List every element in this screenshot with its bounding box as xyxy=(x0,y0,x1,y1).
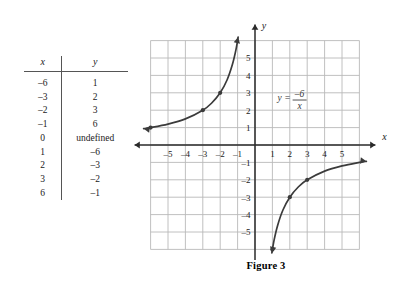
x-tick-label: –3 xyxy=(197,149,208,159)
x-tick-label: 4 xyxy=(322,149,327,159)
curve-branch xyxy=(272,161,366,253)
table-row: –23 xyxy=(24,104,128,118)
cell-y: 3 xyxy=(62,104,128,118)
curve-branch xyxy=(144,37,238,129)
cell-x: 2 xyxy=(24,159,62,173)
y-tick-label: –2 xyxy=(241,175,251,185)
y-tick-label: 2 xyxy=(246,106,251,116)
cell-x: –1 xyxy=(24,118,62,132)
x-tick-label: 5 xyxy=(340,149,345,159)
y-tick-label: 5 xyxy=(246,53,251,63)
x-tick-label: –4 xyxy=(180,149,191,159)
data-point xyxy=(270,247,274,251)
cell-y: –1 xyxy=(62,186,128,200)
column-header-x: x xyxy=(24,56,62,72)
y-tick-label: –4 xyxy=(241,210,252,220)
axis-name-labels: yx xyxy=(261,20,387,142)
x-tick-label: –2 xyxy=(215,149,225,159)
table-row: –61 xyxy=(24,72,128,91)
equation-lhs: y = xyxy=(277,93,291,103)
table-row: 3–2 xyxy=(24,172,128,186)
x-axis-arrow-right xyxy=(370,142,375,149)
x-axis-arrow-left xyxy=(135,142,140,149)
y-tick-label: –1 xyxy=(241,158,251,168)
data-point xyxy=(305,178,309,182)
curve-arrow-right xyxy=(360,157,366,163)
cell-x: 3 xyxy=(24,172,62,186)
y-tick-label: –5 xyxy=(241,227,252,237)
data-point xyxy=(288,195,292,199)
table-header-row: x y xyxy=(24,56,128,72)
table-header: x y xyxy=(24,56,128,72)
x-tick-label: 1 xyxy=(270,149,275,159)
y-tick-label: 3 xyxy=(246,88,251,98)
x-tick-label: –5 xyxy=(163,149,174,159)
cell-y: –3 xyxy=(62,159,128,173)
table-row: 1–6 xyxy=(24,145,128,159)
y-axis-label: y xyxy=(261,20,267,31)
cell-y: –2 xyxy=(62,172,128,186)
column-header-y: y xyxy=(62,56,128,72)
x-tick-label: 2 xyxy=(288,149,293,159)
figure-caption: Figure 3 xyxy=(133,260,399,271)
axes xyxy=(135,25,376,260)
cell-y: 6 xyxy=(62,118,128,132)
table-row: –16 xyxy=(24,118,128,132)
value-table: x y –61–32–23–160undefined1–62–33–26–1 xyxy=(24,56,128,200)
x-axis-label: x xyxy=(381,131,387,142)
table-row: –32 xyxy=(24,90,128,104)
plotted-points xyxy=(149,91,310,252)
coordinate-plane: –5–4–3–2–11234554321–1–2–3–4–5 yx y =–6x xyxy=(133,2,399,260)
equation-denominator: x xyxy=(297,101,303,111)
cell-y: 2 xyxy=(62,90,128,104)
y-tick-label: 1 xyxy=(246,123,251,133)
data-point xyxy=(149,126,153,130)
cell-y: 1 xyxy=(62,72,128,91)
data-point xyxy=(201,108,205,112)
table-body: –61–32–23–160undefined1–62–33–26–1 xyxy=(24,72,128,200)
cell-y: –6 xyxy=(62,145,128,159)
graph-figure: –5–4–3–2–11234554321–1–2–3–4–5 yx y =–6x… xyxy=(133,2,399,280)
cell-x: –2 xyxy=(24,104,62,118)
table-row: 0undefined xyxy=(24,131,128,145)
y-tick-label: –3 xyxy=(241,193,252,203)
equation-numerator: –6 xyxy=(294,89,305,99)
table-row: 6–1 xyxy=(24,186,128,200)
cell-x: –6 xyxy=(24,72,62,91)
y-axis-arrow-up xyxy=(252,25,259,30)
cell-x: 1 xyxy=(24,145,62,159)
cell-y: undefined xyxy=(62,131,128,145)
cell-x: 6 xyxy=(24,186,62,200)
xy-table: x y –61–32–23–160undefined1–62–33–26–1 xyxy=(24,56,128,200)
cell-x: –3 xyxy=(24,90,62,104)
data-point xyxy=(218,91,222,95)
x-tick-label: 3 xyxy=(305,149,310,159)
table-row: 2–3 xyxy=(24,159,128,173)
cell-x: 0 xyxy=(24,131,62,145)
y-tick-label: 4 xyxy=(246,71,251,81)
